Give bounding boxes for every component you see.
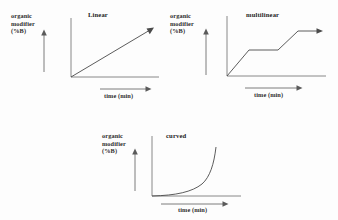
plot-area-curved — [146, 134, 242, 204]
x-axis-label-linear: time (min) — [104, 92, 133, 99]
y-axis-label-line2: modifier — [11, 20, 35, 28]
y-axis-label-multilinear: organic modifier (%B) — [170, 12, 194, 35]
panel-curved: organic modifier (%B) curved time (min) — [84, 118, 264, 220]
y-direction-arrow-curved — [129, 147, 141, 193]
y-axis-label-line3: (%B) — [11, 27, 35, 35]
panel-linear: organic modifier (%B) Linear time (min) — [0, 0, 170, 110]
y-axis-label-linear: organic modifier (%B) — [11, 12, 35, 35]
y-axis-label-line2: modifier — [102, 140, 126, 148]
y-axis-label-line3: (%B) — [170, 27, 194, 35]
y-axis-label-line3: (%B) — [102, 147, 126, 155]
plot-area-linear — [66, 14, 160, 86]
x-axis-label-curved: time (min) — [178, 206, 207, 213]
y-axis-label-line2: modifier — [170, 20, 194, 28]
y-axis-label-line1: organic — [102, 132, 126, 140]
y-direction-arrow-linear — [38, 28, 50, 74]
y-axis-label-line1: organic — [170, 12, 194, 20]
y-direction-arrow-multilinear — [200, 27, 212, 77]
panel-multilinear: organic modifier (%B) multilinear time (… — [168, 0, 338, 110]
plot-area-multilinear — [222, 14, 327, 86]
x-axis-label-multilinear: time (min) — [254, 91, 283, 98]
y-axis-label-curved: organic modifier (%B) — [102, 132, 126, 155]
y-axis-label-line1: organic — [11, 12, 35, 20]
